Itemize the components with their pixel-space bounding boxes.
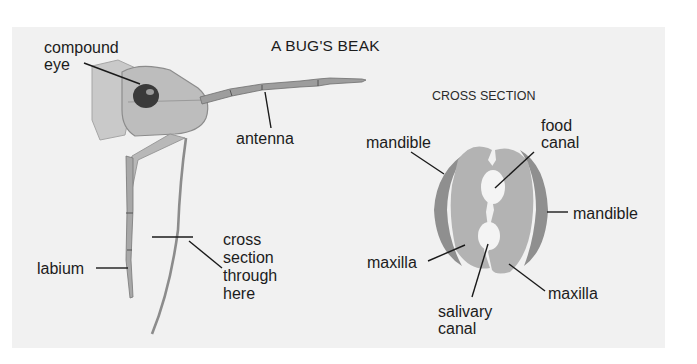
label-salivary-canal: salivary canal [438,303,492,337]
cross-section-illustration [434,147,548,274]
label-cross-section-note: cross section through here [223,231,277,303]
maxilla-left-shape [451,147,494,269]
compound-eye-icon [133,84,159,108]
label-antenna: antenna [236,130,294,147]
food-canal-shape [481,170,505,204]
labium-icon [126,156,133,298]
antenna-icon [200,78,366,104]
salivary-canal-shape [478,222,500,250]
label-mandible-left: mandible [366,134,431,151]
label-compound-eye: compound eye [44,39,119,73]
label-maxilla-right: maxilla [548,285,598,302]
label-labium: labium [37,260,84,277]
label-mandible-right: mandible [573,205,638,222]
label-food-canal: food canal [541,117,579,151]
label-maxilla-left: maxilla [367,254,417,271]
maxilla-right-shape [488,149,533,274]
cross-section-title: CROSS SECTION [432,89,536,103]
diagram-title: A BUG'S BEAK [271,37,380,55]
